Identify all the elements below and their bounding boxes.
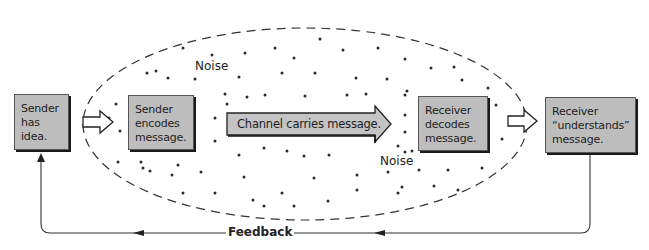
feedback-arrowhead-3 xyxy=(133,230,144,236)
node-sender-idea: Sender has idea. xyxy=(14,94,69,150)
feedback-line xyxy=(41,155,590,233)
node-receiver-decodes: Receiver decodes message. xyxy=(418,96,488,151)
arrow-decode-to-understand xyxy=(508,110,537,132)
feedback-arrowhead-up xyxy=(37,153,45,162)
noise-label-bottom: Noise xyxy=(380,154,413,168)
feedback-label: Feedback xyxy=(226,225,294,239)
node-receiver-understands: Receiver “understands” message. xyxy=(545,97,636,153)
node-sender-encodes: Sender encodes message. xyxy=(128,95,194,150)
node-channel-label: Channel carries message. xyxy=(237,117,381,131)
noise-label-top: Noise xyxy=(195,59,228,73)
arrow-idea-to-encode xyxy=(83,111,113,133)
feedback-arrowhead-1 xyxy=(374,230,385,236)
